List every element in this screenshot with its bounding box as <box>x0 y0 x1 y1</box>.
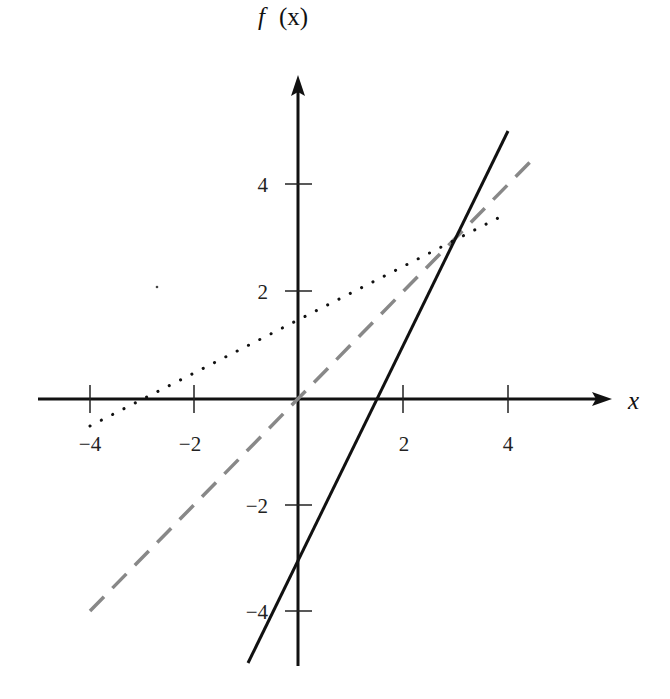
x-axis-title: x <box>627 387 639 414</box>
y-axis-title: f (x) <box>258 3 308 31</box>
y-axis-title-fn: f <box>258 3 268 30</box>
y-tick-label: −2 <box>246 494 268 518</box>
x-tick-label: 2 <box>399 432 410 456</box>
y-axis-title-arg: (x) <box>279 3 308 31</box>
y-tick-label: 4 <box>258 173 269 197</box>
series-solid-line <box>248 131 508 663</box>
scan-speck <box>156 286 159 289</box>
y-tick-label: 2 <box>258 280 269 304</box>
x-tick-label: 4 <box>503 432 514 456</box>
series-dashed-line <box>90 157 535 611</box>
x-tick-label: −4 <box>79 432 102 456</box>
y-tick-label: −4 <box>246 600 269 624</box>
line-chart: −4 −2 2 4 4 2 −2 −4 f (x) x <box>0 0 670 699</box>
x-tick-label: −2 <box>179 432 201 456</box>
